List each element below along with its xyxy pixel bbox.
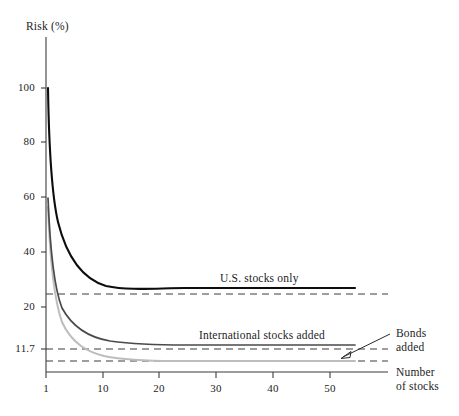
series-label-us-stocks-only: U.S. stocks only [220, 272, 299, 284]
x-tick-marks [46, 372, 330, 378]
y-tick-label-11-7: 11.7 [2, 342, 35, 354]
x-tick-label-50: 50 [316, 382, 344, 394]
y-tick-label-60: 60 [2, 190, 35, 202]
y-tick-label-100: 100 [2, 81, 35, 93]
bonds-added-line-2: added [396, 341, 424, 353]
y-tick-label-20: 20 [2, 300, 35, 312]
y-tick-marks [41, 88, 46, 349]
number-of-stocks-line-2: of stocks [396, 380, 439, 392]
x-tick-label-20: 20 [145, 382, 173, 394]
series-label-international-stocks-added: International stocks added [199, 329, 325, 341]
bonds-added-line-1: Bonds [396, 327, 426, 339]
y-axis-title: Risk (%) [26, 20, 69, 32]
risk-diversification-chart: Risk (%) 100 80 60 40 20 11.7 1 10 20 30… [0, 0, 459, 416]
axes-group [46, 37, 388, 372]
bonds-added-leader-group [341, 334, 390, 359]
curve-international-stocks-added [48, 198, 355, 345]
bonds-added-arrowhead [341, 352, 351, 359]
y-tick-label-80: 80 [2, 135, 35, 147]
chart-canvas [0, 0, 459, 416]
x-axis-title: Number of stocks [396, 366, 439, 393]
x-tick-label-40: 40 [259, 382, 287, 394]
x-tick-label-10: 10 [89, 382, 117, 394]
x-tick-label-30: 30 [202, 382, 230, 394]
reference-lines-group [46, 294, 388, 361]
number-of-stocks-line-1: Number [396, 366, 435, 378]
series-curves-group [48, 88, 355, 361]
y-tick-label-40: 40 [2, 245, 35, 257]
annotation-bonds-added: Bonds added [396, 327, 426, 354]
x-tick-label-1: 1 [32, 382, 60, 394]
curve-us-stocks-only [48, 88, 355, 289]
